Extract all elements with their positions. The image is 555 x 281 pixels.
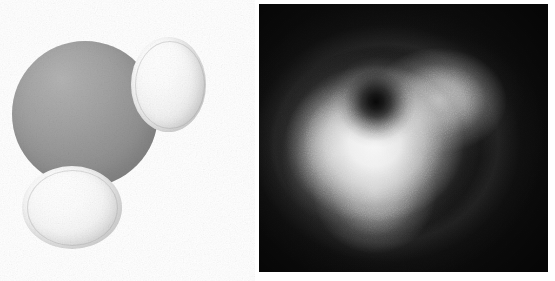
electron-density-map — [259, 4, 548, 272]
water-molecule-model — [0, 0, 255, 281]
atom-hydrogen-upper-right-sphere — [131, 37, 206, 132]
molecule-panel-label — [0, 0, 1, 1]
density-vignette — [259, 4, 548, 272]
atom-hydrogen-lower-left-sphere — [22, 166, 122, 249]
figure-root — [0, 0, 555, 281]
